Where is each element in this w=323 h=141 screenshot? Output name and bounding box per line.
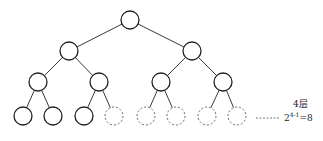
tree-node — [152, 73, 170, 91]
tree-edge — [167, 57, 185, 75]
tree-edge — [77, 24, 122, 47]
formula-result: =8 — [299, 113, 312, 123]
tree-edge — [198, 57, 216, 75]
virtual-tree-node — [137, 107, 155, 125]
tree-node — [29, 73, 47, 91]
virtual-tree-node — [228, 107, 246, 125]
tree-node — [90, 73, 108, 91]
tree-edge — [103, 90, 111, 108]
tree-edge — [150, 90, 158, 108]
tree-edge — [75, 57, 92, 75]
tree-edge — [27, 90, 35, 108]
tree-node — [75, 107, 93, 125]
tree-node — [60, 42, 78, 60]
tree-edge — [211, 90, 219, 108]
tree-node — [14, 107, 32, 125]
tree-edge — [88, 90, 96, 108]
virtual-tree-node — [198, 107, 216, 125]
tree-node — [183, 42, 201, 60]
virtual-tree-node — [105, 107, 123, 125]
tree-node — [214, 73, 232, 91]
node-count-formula: 24-1=8 — [284, 110, 313, 123]
binary-tree-diagram: 4层 24-1=8 — [0, 0, 323, 141]
tree-edge — [42, 90, 50, 108]
formula-exponent: 4-1 — [290, 111, 300, 118]
tree-node — [121, 11, 139, 29]
tree-node — [44, 107, 62, 125]
tree-graphic — [0, 0, 323, 141]
level-count-text: 4层 — [293, 99, 308, 109]
level-label: 4层 — [293, 99, 308, 109]
tree-edge — [138, 24, 184, 47]
virtual-tree-node — [167, 107, 185, 125]
tree-edge — [165, 90, 173, 108]
tree-edge — [226, 90, 233, 107]
tree-edge — [44, 57, 62, 75]
